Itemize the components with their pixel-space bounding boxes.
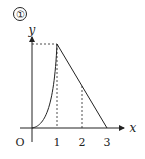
svg-text:①: ① [16,9,25,20]
x-tick-2: 2 [79,136,86,149]
rising-curve [32,44,57,128]
x-axis-label: x [130,121,137,135]
y-axis-label: y [28,23,36,37]
x-tick-1: 1 [54,136,61,149]
origin-label: O [15,136,24,149]
problem-label: ① [14,8,27,21]
x-tick-3: 3 [104,136,111,149]
graph-diagram: ① y x O 1 2 3 [0,0,145,159]
